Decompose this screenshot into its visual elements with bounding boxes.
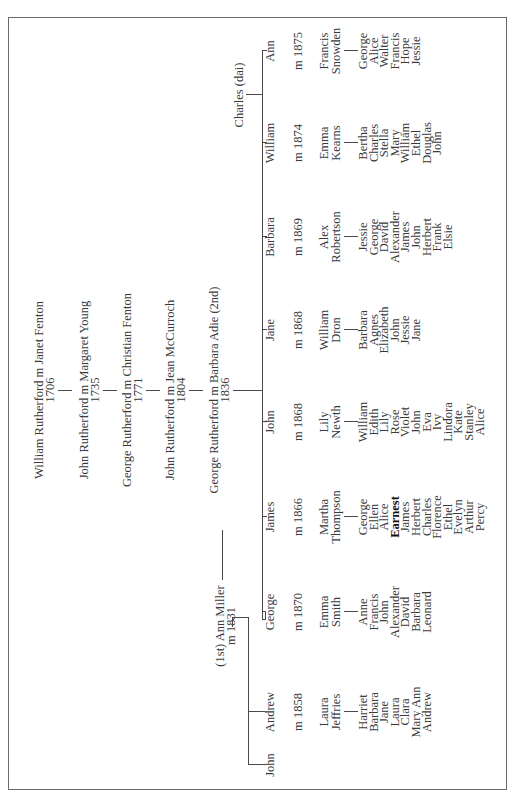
child-spouse-last: Kearns [330, 125, 342, 160]
grandchild: Andrew [422, 686, 433, 737]
child-spouse-last: Smith [330, 597, 342, 627]
grandchild: Jessie [411, 33, 422, 70]
ancestor-year: 1735 [90, 301, 101, 480]
child-spouse-last: Thompson [330, 490, 342, 543]
child-marriage: m 1875 [292, 32, 304, 70]
ancestor-year: 1771 [133, 293, 144, 487]
ancestor-year: 1836 [220, 287, 231, 494]
child-name: William [264, 123, 276, 163]
first-marriage-line [222, 530, 223, 580]
grandchild: Jane [411, 306, 422, 353]
ancestor-2: John Rutherford m Margaret Young 1735 [79, 301, 101, 480]
second-marriage-drop [233, 390, 262, 391]
child-name: John [264, 410, 276, 434]
child-john-first: John [264, 753, 276, 777]
child-name: James [264, 502, 276, 533]
ancestor-5: George Rutherford m Barbara Adie (2nd) 1… [209, 287, 231, 494]
child-spouse-last: Newth [330, 405, 342, 438]
child-spouse-last: Jeffries [330, 694, 342, 731]
ancestor-1: William Rutherford m Janet Fenton 1706 [34, 301, 56, 479]
grandchild: Percy [475, 495, 486, 539]
child-marriage: m 1868 [292, 311, 304, 349]
grandchildren-george: Anne Francis John Alexander David Barbar… [358, 586, 432, 638]
ancestor-3: George Rutherford m Christian Fenton 177… [122, 293, 144, 487]
child-marriage: m 1866 [292, 498, 304, 536]
grandchildren-barbara: Jessie George David Alexander James John… [358, 211, 453, 263]
child-spouse-last: Snowden [330, 28, 342, 75]
child-marriage: m 1858 [292, 693, 304, 731]
first-marriage-trunk [248, 617, 249, 765]
child-name: Jane [264, 319, 276, 341]
child-name: Andrew [264, 692, 276, 732]
grandchild: Elsie [443, 211, 454, 263]
grandchild: John [432, 122, 443, 164]
child-marriage: m 1869 [292, 218, 304, 256]
grandchild: Leonard [422, 586, 433, 638]
child-name: George [264, 594, 276, 631]
family-tree: William Rutherford m Janet Fenton 1706 J… [0, 0, 515, 794]
ancestor-connector [103, 390, 117, 391]
grandchild: Alice [475, 402, 486, 442]
grandchildren-andrew: Harriet Barbara Jane Laura Clara Mary An… [358, 686, 432, 737]
first-marriage-drop [232, 617, 248, 618]
first-marriage-stub-h [232, 617, 233, 627]
charles-connector [246, 94, 262, 95]
child-spouse-last: Robertson [330, 211, 342, 262]
child-spouse-last: Dron [330, 317, 342, 343]
ancestor-4: John Rutherford m Jean McCurroch 1804 [165, 300, 187, 481]
ancestor-connector [58, 390, 72, 391]
ancestor-year: 1804 [176, 300, 187, 481]
ancestor-year: 1706 [45, 301, 56, 479]
ancestor-connector [146, 390, 160, 391]
first-marriage-stub [233, 619, 234, 620]
first-wife: (1st) Ann Miller m 1831 [215, 585, 237, 666]
grandchildren-john: William Edith Lily Rose Violet John Eva … [358, 402, 485, 442]
child-marriage: m 1874 [292, 124, 304, 162]
grandchildren-jane: Barbara Agnes Elizabeth John Jessie Jane [358, 306, 422, 353]
charles-dai: Charles (dai) [234, 63, 245, 128]
grandchildren-james: George Ellen Alice Earnest James Herbert… [358, 495, 485, 539]
child-name: Ann [264, 40, 276, 62]
child-name: Barbara [264, 217, 276, 257]
child-marriage: m 1870 [292, 593, 304, 631]
child-marriage: m 1868 [292, 403, 304, 441]
grandchildren-ann: George Alice Walter Francis Hope Jessie [358, 33, 422, 70]
grandchildren-william: Bertha Charles Stella Mary William Ethel… [358, 122, 443, 164]
ancestor-connector [189, 390, 203, 391]
